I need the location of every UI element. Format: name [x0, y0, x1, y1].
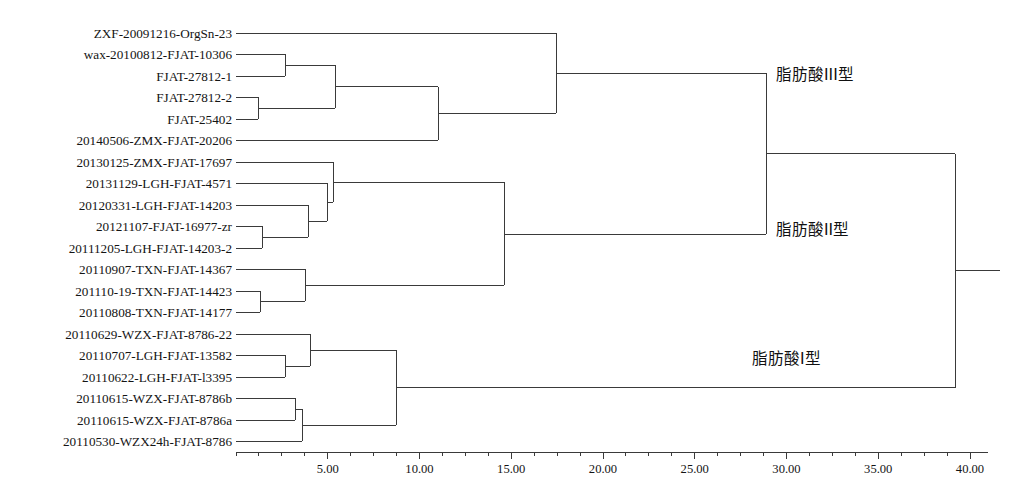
axis-tick-label: 5.00 [317, 462, 339, 477]
dendrogram-tree [0, 0, 1013, 493]
axis-tick-label: 30.00 [772, 462, 800, 477]
fatty-acid-type-3: 脂肪酸III型 [776, 62, 854, 84]
axis-tick-label: 40.00 [956, 462, 984, 477]
fatty-acid-type-1: 脂肪酸I型 [752, 346, 821, 368]
axis-tick-label: 15.00 [497, 462, 525, 477]
axis-tick-label: 10.00 [405, 462, 433, 477]
axis-tick-label: 25.00 [681, 462, 709, 477]
axis-tick-label: 20.00 [589, 462, 617, 477]
fatty-acid-type-2: 脂肪酸II型 [776, 217, 849, 239]
axis-tick-label: 35.00 [864, 462, 892, 477]
dendrogram-figure: ZXF-20091216-OrgSn-23wax-20100812-FJAT-1… [0, 0, 1013, 493]
